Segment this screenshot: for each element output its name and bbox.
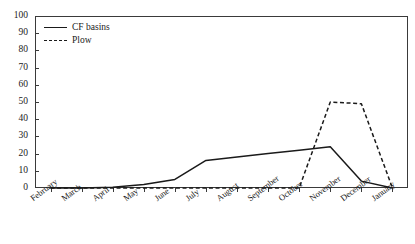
legend-item-plow: Plow [44, 34, 149, 47]
line-chart: 0102030405060708090100 FebruaryMarchApri… [0, 0, 415, 244]
dashed-line-key [44, 37, 67, 45]
series-line-cf-basins [51, 147, 393, 188]
chart-legend: CF basins Plow [44, 21, 149, 47]
series-line-plow [51, 102, 393, 188]
solid-line-key [44, 24, 67, 32]
legend-label: CF basins [72, 23, 110, 33]
legend-label: Plow [72, 36, 92, 46]
legend-item-cf-basins: CF basins [44, 21, 149, 34]
